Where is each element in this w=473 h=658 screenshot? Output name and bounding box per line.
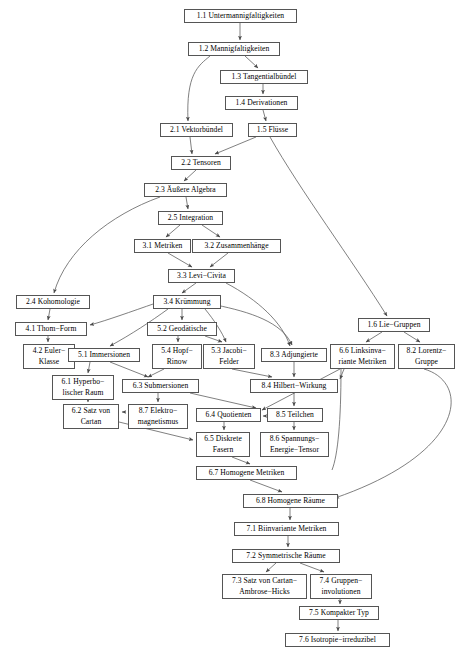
- graph-node-6.2[interactable]: 6.2 Satz vonCartan: [63, 404, 119, 429]
- edge-2.1-2.2: [190, 137, 192, 154]
- edge-1.2-2.1: [188, 56, 210, 121]
- graph-node-6.8[interactable]: 6.8 Homogene Räume: [243, 494, 338, 508]
- edge-3.4-8.3: [216, 305, 292, 345]
- graph-node-6.4[interactable]: 6.4 Quotienten: [196, 408, 261, 422]
- graph-node-2.2[interactable]: 2.2 Tensoren: [171, 156, 231, 170]
- edge-2.5-3.1: [166, 225, 180, 237]
- edge-6.5-6.7: [232, 457, 250, 464]
- graph-node-2.3[interactable]: 2.3 Äußere Algebra: [144, 183, 227, 197]
- edge-6.7-6.8: [250, 480, 282, 492]
- graph-node-8.3[interactable]: 8.3 Adjungierte: [261, 348, 327, 362]
- graph-node-3.4[interactable]: 3.4 Krümmung: [153, 295, 221, 309]
- edge-2.5-3.2: [202, 225, 220, 237]
- graph-node-6.6[interactable]: 6.6 Linksinva−riante Metriken: [330, 344, 395, 369]
- graph-node-7.4[interactable]: 7.4 Gruppen−involutionen: [310, 574, 372, 599]
- graph-node-8.2[interactable]: 8.2 Lorentz−Gruppe: [398, 344, 455, 369]
- graph-node-1.6[interactable]: 1.6 Lie−Gruppen: [358, 318, 430, 332]
- graph-node-1.4[interactable]: 1.4 Derivationen: [225, 96, 298, 110]
- graph-node-3.1[interactable]: 3.1 Metriken: [134, 239, 191, 253]
- edge-2.3-2.5: [186, 197, 188, 209]
- graph-node-5.3[interactable]: 5.3 Jacobi−Felder: [203, 344, 255, 369]
- graph-node-7.1[interactable]: 7.1 Biinvariante Metriken: [234, 522, 339, 536]
- graph-node-3.2[interactable]: 3.2 Zusammenhänge: [192, 239, 281, 253]
- graph-node-4.1[interactable]: 4.1 Thom−Form: [15, 322, 87, 336]
- graph-node-3.3[interactable]: 3.3 Levi−Civita: [168, 269, 235, 283]
- edge-1.2-1.3: [245, 56, 258, 68]
- graph-node-1.2[interactable]: 1.2 Mannigfaltigkeiten: [188, 42, 280, 56]
- graph-node-8.6[interactable]: 8.6 Spannungs−Energie−Tensor: [260, 432, 329, 457]
- edge-6.6-8.4: [340, 369, 344, 379]
- edge-7.2-7.4: [300, 563, 324, 572]
- graph-node-5.2[interactable]: 5.2 Geodätische: [147, 322, 217, 336]
- edge-5.1-6.1: [88, 362, 90, 373]
- edge-1.5-1.6: [270, 137, 387, 316]
- graph-node-1.1[interactable]: 1.1 Untermannigfaltigkeiten: [184, 9, 297, 23]
- edge-1.4-1.5: [263, 110, 266, 121]
- edge-7.2-7.3: [266, 563, 276, 572]
- edge-5.4-6.3: [148, 369, 164, 377]
- graph-node-7.3[interactable]: 7.3 Satz von Cartan−Ambrose−Hicks: [222, 574, 307, 599]
- graph-node-7.5[interactable]: 7.5 Kompakter Typ: [299, 606, 379, 620]
- edge-2.2-2.3: [184, 170, 196, 181]
- edge-1.5-2.2: [215, 137, 256, 154]
- edge-1.6-6.6: [366, 332, 382, 342]
- graph-node-7.2[interactable]: 7.2 Symmetrische Räume: [232, 549, 340, 563]
- graph-node-2.4[interactable]: 2.4 Kohomologie: [16, 295, 90, 309]
- graph-node-7.6[interactable]: 7.6 Isotropie−irreduzibel: [285, 633, 390, 647]
- graph-node-6.7[interactable]: 6.7 Homogene Metriken: [196, 466, 297, 480]
- graph-node-2.1[interactable]: 2.1 Vektorbündel: [160, 123, 233, 137]
- edge-3.2-3.3: [210, 253, 228, 267]
- edge-3.1-3.3: [168, 253, 192, 267]
- edge-5.2-5.3: [205, 336, 222, 342]
- edge-1.6-8.2: [404, 332, 420, 342]
- graph-node-6.1[interactable]: 6.1 Hyperbo−lischer Raum: [52, 375, 114, 400]
- edge-2.4-4.1: [48, 309, 50, 320]
- graph-node-1.3[interactable]: 1.3 Tangentialbündel: [220, 70, 308, 84]
- edge-3.3-8.3: [226, 283, 290, 346]
- graph-node-6.3[interactable]: 6.3 Submersionen: [122, 379, 199, 393]
- edge-8.2-6.8: [335, 369, 451, 498]
- dependency-graph: 1.1 Untermannigfaltigkeiten1.2 Mannigfal…: [0, 0, 473, 658]
- edge-5.3-8.4: [232, 369, 272, 377]
- graph-node-8.4[interactable]: 8.4 Hilbert−Wirkung: [250, 379, 338, 393]
- graph-node-5.1[interactable]: 5.1 Immersionen: [68, 348, 140, 362]
- edge-6.3-6.4: [190, 393, 256, 408]
- graph-node-8.7[interactable]: 8.7 Elektro−magnetismus: [128, 404, 188, 429]
- graph-node-2.5[interactable]: 2.5 Integration: [158, 211, 223, 225]
- edge-5.1-6.3: [110, 362, 148, 377]
- edge-3.3-3.4: [182, 283, 196, 293]
- graph-node-1.5[interactable]: 1.5 Flüsse: [248, 123, 297, 137]
- graph-node-5.4[interactable]: 5.4 Hopf−Rinow: [152, 344, 202, 369]
- graph-node-6.5[interactable]: 6.5 DiskreteFasern: [196, 432, 250, 457]
- graph-node-8.5[interactable]: 8.5 Teilchen: [267, 408, 323, 422]
